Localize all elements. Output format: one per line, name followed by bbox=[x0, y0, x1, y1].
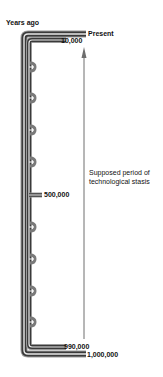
annotation-line-1: Supposed period of bbox=[89, 169, 150, 178]
stasis-annotation: Supposed period of technological stasis bbox=[89, 169, 150, 186]
label-present: Present bbox=[88, 30, 114, 38]
stasis-arrow bbox=[82, 47, 87, 339]
timeline-diagram bbox=[0, 0, 163, 377]
axis-title: Years ago bbox=[6, 19, 39, 27]
label-500000: 500,000 bbox=[44, 191, 69, 199]
label-990000: 990,000 bbox=[64, 343, 89, 351]
annotation-line-2: technological stasis bbox=[89, 178, 150, 187]
label-1000000: 1,000,000 bbox=[87, 351, 118, 359]
label-10000: 10,000 bbox=[61, 37, 82, 45]
